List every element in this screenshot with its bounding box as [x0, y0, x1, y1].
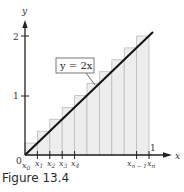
x-end-tick-label: 1: [150, 143, 156, 153]
y-axis-label: y: [21, 6, 28, 16]
svg-text:x3: x3: [59, 159, 68, 169]
y-tick-label-1: 1: [13, 91, 19, 101]
y-tick-label-2: 2: [13, 32, 19, 42]
riemann-bar: [124, 48, 136, 155]
equation-callout: y = 2x: [56, 58, 95, 85]
svg-text:xn: xn: [147, 159, 156, 169]
riemann-bar: [99, 72, 111, 155]
x-axis-label: x: [175, 151, 180, 161]
equation-label: y = 2x: [59, 60, 93, 71]
x-partition-labels: x0 x1 x2 x3 x4 xn − 1 xn: [22, 159, 156, 171]
svg-text:x0: x0: [22, 161, 31, 171]
riemann-bar: [137, 36, 149, 155]
svg-text:xn − 1: xn − 1: [127, 159, 147, 169]
riemann-bar: [37, 131, 49, 155]
riemann-bar: [112, 60, 124, 155]
svg-text:x1: x1: [35, 159, 43, 169]
y-axis-arrow-icon: [22, 20, 27, 28]
riemann-sum-figure: y 2 1 x 0 1 x0 x1 x2 x3 x4 xn − 1 xn y =…: [0, 0, 184, 192]
x-axis-arrow-icon: [163, 152, 172, 157]
svg-text:x4: x4: [71, 159, 80, 169]
svg-text:x2: x2: [47, 159, 56, 169]
figure-caption: Figure 13.4: [2, 171, 69, 185]
